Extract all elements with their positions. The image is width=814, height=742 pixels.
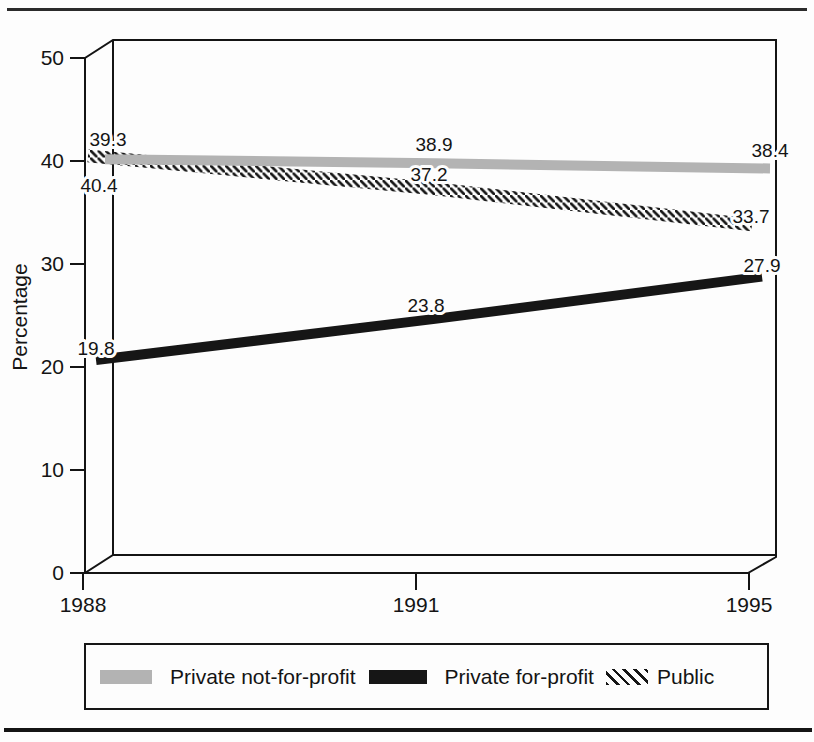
value-label-public: 33.7 (733, 206, 770, 227)
value-label-public: 37.2 (411, 164, 448, 185)
y-tick-label: 20 (41, 355, 64, 378)
legend-swatch-public (606, 669, 648, 685)
legend-swatch-private-for-profit (369, 670, 427, 684)
value-label-public: 40.4 (81, 175, 118, 196)
x-category-label: 1995 (726, 593, 773, 616)
legend-box: Private not-for-profit Private for-profi… (84, 643, 769, 710)
series-line-private-for-profit (96, 277, 762, 360)
y-tick-label: 0 (52, 561, 64, 584)
y-axis-title: Percentage (8, 263, 31, 370)
value-label-private-not-for-profit: 38.9 (416, 134, 453, 155)
figure-page: 01020304050198819911995Percentage39.338.… (0, 0, 814, 742)
x-category-label: 1988 (60, 593, 107, 616)
value-label-private-not-for-profit: 38.4 (752, 140, 789, 161)
bottom-rule (4, 728, 812, 732)
value-label-private-for-profit: 19.8 (78, 338, 115, 359)
x-category-label: 1991 (393, 593, 440, 616)
y-tick-label: 10 (41, 458, 64, 481)
value-label-private-for-profit: 27.9 (744, 255, 781, 276)
line-chart: 01020304050198819911995Percentage39.338.… (0, 0, 814, 632)
legend-label-private-for-profit: Private for-profit (445, 665, 594, 689)
value-label-private-not-for-profit: 39.3 (90, 129, 127, 150)
legend-swatch-private-not-for-profit (100, 670, 152, 684)
value-label-private-for-profit: 23.8 (408, 295, 445, 316)
y-tick-label: 30 (41, 252, 64, 275)
legend-label-public: Public (657, 665, 714, 689)
legend-label-private-not-for-profit: Private not-for-profit (170, 665, 356, 689)
y-tick-label: 50 (41, 46, 64, 69)
y-tick-label: 40 (41, 149, 64, 172)
